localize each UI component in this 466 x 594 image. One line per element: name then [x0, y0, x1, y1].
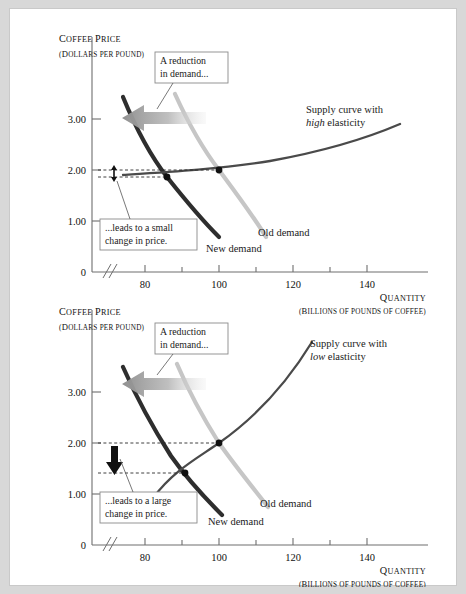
y-axis-title-bottom: COFFEE PRICE	[59, 306, 121, 317]
supply-curve-top	[123, 124, 400, 175]
old-equilibrium-dot-top	[216, 167, 223, 174]
supply-curve-label-line1-bottom: Supply curve with	[310, 338, 388, 349]
y-axis-subtitle-bottom: (DOLLARS PER POUND)	[59, 322, 145, 332]
new-demand-label-bottom: New demand	[208, 516, 264, 527]
x-tick-label-100-bottom: 100	[211, 552, 227, 563]
new-demand-label-top: New demand	[206, 243, 262, 254]
new-equilibrium-dot-bottom	[182, 470, 189, 477]
callout-price-change-line2-bottom: change in price.	[105, 508, 167, 519]
y-tick-label-2-bottom: 2.00	[68, 438, 86, 449]
x-axis-title-top: QUANTITY	[380, 292, 426, 303]
x-tick-label-80: 80	[140, 279, 151, 290]
callout-reduction-top: A reduction in demand...	[155, 52, 228, 109]
callout-price-change-line1-bottom: ...leads to a large	[105, 495, 172, 506]
new-equilibrium-dot-top	[164, 174, 171, 181]
x-ticks-bottom	[145, 538, 367, 545]
callout-reduction-line2-bottom: in demand...	[160, 339, 208, 350]
y-tick-label-0: 0	[81, 267, 86, 278]
callout-reduction-line1-bottom: A reduction	[160, 326, 206, 337]
panel-low-elasticity: COFFEE PRICE (DOLLARS PER POUND) 3.00 2.…	[59, 306, 428, 587]
y-tick-label-0-bottom: 0	[81, 540, 86, 551]
x-tick-label-120-bottom: 120	[285, 552, 301, 563]
supply-rest-top: elasticity	[325, 117, 366, 128]
x-axis-break-bottom	[103, 537, 117, 551]
price-change-arrow-top	[111, 165, 117, 182]
supply-curve-label-line2-bottom: low elasticity	[310, 351, 366, 362]
x-axis-subtitle-bottom: (BILLIONS OF POUNDS OF COFFEE)	[299, 579, 426, 587]
y-tick-label-3-bottom: 3.00	[68, 387, 86, 398]
y-axis-title-top: COFFEE PRICE	[59, 33, 121, 44]
x-ticks-top	[145, 265, 367, 272]
x-axis-subtitle-top: (BILLIONS OF POUNDS OF COFFEE)	[299, 306, 426, 316]
x-axis-title-bottom: QUANTITY	[380, 565, 426, 576]
figure-page: COFFEE PRICE (DOLLARS PER POUND) 3.00	[9, 8, 457, 586]
old-demand-label-top: Old demand	[258, 227, 310, 238]
panel-high-elasticity: COFFEE PRICE (DOLLARS PER POUND) 3.00	[59, 33, 428, 316]
x-tick-label-140: 140	[359, 279, 375, 290]
supply-curve-label-line1-top: Supply curve with	[306, 104, 384, 115]
callout-price-change-line1-top: ...leads to a small	[105, 222, 173, 233]
callout-reduction-line2-top: in demand...	[160, 68, 208, 79]
economics-figure: COFFEE PRICE (DOLLARS PER POUND) 3.00	[10, 9, 458, 587]
y-tick-label-1-bottom: 1.00	[68, 489, 86, 500]
supply-curve-label-line2-top: high elasticity	[306, 117, 366, 128]
x-tick-label-80-bottom: 80	[140, 552, 151, 563]
callout-reduction-bottom: A reduction in demand...	[155, 323, 228, 375]
y-tick-label-1: 1.00	[68, 216, 86, 227]
supply-emphasis-top: high	[306, 117, 325, 128]
callout-reduction-line1-top: A reduction	[160, 55, 206, 66]
y-axis-subtitle-top: (DOLLARS PER POUND)	[59, 49, 145, 59]
x-axis-break-top	[103, 264, 117, 278]
old-demand-label-bottom: Old demand	[260, 498, 312, 509]
x-tick-label-120: 120	[285, 279, 301, 290]
old-equilibrium-dot-bottom	[216, 440, 223, 447]
y-tick-label-3: 3.00	[68, 114, 86, 125]
x-tick-label-140-bottom: 140	[359, 552, 375, 563]
supply-emphasis-bottom: low	[310, 351, 325, 362]
callout-price-change-line2-top: change in price.	[105, 235, 167, 246]
supply-rest-bottom: elasticity	[325, 351, 366, 362]
y-tick-label-2: 2.00	[68, 165, 86, 176]
x-tick-label-100: 100	[211, 279, 227, 290]
callout-price-change-top: ...leads to a small change in price.	[100, 181, 197, 250]
